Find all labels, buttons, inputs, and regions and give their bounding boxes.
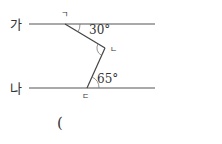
parallel-lines-diagram: 가 나 ㄱ ㄴ ㄷ 30° 65° (	[0, 0, 222, 144]
point-label-digeut: ㄷ	[82, 92, 89, 101]
answer-paren: (	[57, 114, 63, 132]
angle-label-30: 30°	[89, 23, 110, 37]
point-label-giyeok: ㄱ	[61, 10, 68, 19]
angle-arc-30	[78, 24, 80, 32]
line-label-na: 나	[10, 81, 22, 96]
line-label-ga: 가	[10, 17, 22, 32]
angle-label-65: 65°	[97, 72, 118, 86]
point-label-nieun: ㄴ	[110, 45, 117, 54]
